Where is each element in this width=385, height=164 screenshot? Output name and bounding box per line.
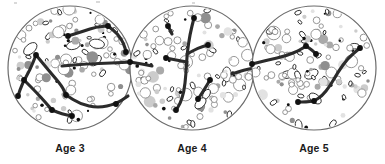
- network-node: [15, 93, 21, 99]
- cell-open: [289, 82, 294, 87]
- cell-dot: [89, 12, 91, 14]
- cell-open: [184, 125, 189, 130]
- network-node: [123, 49, 129, 55]
- cell-filled: [136, 81, 142, 87]
- cell-open: [33, 103, 38, 108]
- cell-filled: [51, 98, 56, 103]
- cell-open: [283, 110, 288, 115]
- cell-open: [67, 23, 73, 29]
- cell-dot: [302, 37, 305, 40]
- cell-dot: [77, 118, 81, 122]
- cell-open: [199, 54, 206, 61]
- cell-filled: [276, 80, 280, 84]
- cell-dot: [81, 44, 84, 47]
- cell-open: [230, 35, 234, 39]
- cell-open: [140, 88, 150, 98]
- cell-open: [151, 44, 156, 49]
- panel-label-3: Age 5: [299, 142, 329, 154]
- cell-filled: [145, 43, 149, 47]
- cell-vesicle: [242, 85, 245, 90]
- network-node: [63, 92, 69, 98]
- network-node: [33, 52, 39, 58]
- cell-dot: [306, 70, 309, 73]
- network-node: [49, 107, 55, 113]
- cell-open: [13, 48, 18, 53]
- network-node: [303, 43, 309, 49]
- cell-dot: [162, 107, 166, 111]
- cell-filled: [320, 61, 329, 70]
- cell-open: [313, 17, 320, 24]
- cell-filled: [168, 116, 172, 120]
- cell-dot: [113, 53, 116, 56]
- cell-dot: [184, 18, 187, 21]
- cell-filled: [35, 65, 39, 69]
- cell-filled: [49, 19, 53, 23]
- age-progression-figure: Age 3Age 4Age 5: [0, 0, 385, 164]
- network-node: [127, 59, 133, 65]
- cell-dot: [339, 40, 341, 42]
- cell-filled: [337, 79, 342, 84]
- cell-filled: [319, 78, 327, 86]
- panel-label-2: Age 4: [177, 142, 207, 154]
- cell-open: [26, 25, 32, 31]
- cell-open: [319, 24, 323, 28]
- cell-open: [326, 55, 331, 60]
- cell-filled: [137, 92, 141, 96]
- cell-filled: [311, 9, 315, 13]
- cell-vesicle: [222, 80, 226, 86]
- network-node: [207, 77, 213, 83]
- cell-vesicle: [190, 120, 195, 127]
- cell-open: [333, 44, 340, 51]
- cell-open: [108, 47, 113, 52]
- scan-artifact-mark: [14, 2, 17, 4]
- network-node: [357, 45, 363, 51]
- cell-filled: [32, 109, 36, 113]
- cell-open: [164, 38, 172, 46]
- cell-filled: [182, 41, 187, 46]
- scan-artifact-mark: [192, 2, 195, 4]
- cell-open: [211, 96, 217, 102]
- cell-open: [87, 97, 92, 102]
- cell-filled: [309, 68, 313, 72]
- network-node: [173, 107, 179, 113]
- cell-open: [282, 73, 286, 77]
- network-node: [191, 15, 197, 21]
- cell-open: [174, 37, 181, 44]
- cell-open: [266, 45, 275, 54]
- cell-open: [178, 62, 185, 69]
- cell-filled: [118, 84, 123, 89]
- cell-open: [358, 89, 366, 97]
- cell-open: [296, 78, 300, 82]
- cell-filled: [26, 93, 29, 96]
- cell-filled: [302, 15, 306, 19]
- cell-filled: [16, 76, 20, 80]
- cell-dot: [64, 44, 67, 47]
- cell-filled: [160, 99, 166, 105]
- cell-open: [107, 83, 115, 91]
- cell-filled: [154, 89, 159, 94]
- cell-filled: [324, 43, 328, 47]
- cell-filled: [224, 27, 232, 35]
- cell-open: [170, 46, 175, 51]
- cell-filled: [208, 107, 213, 112]
- panel-group: [8, 3, 376, 132]
- cell-filled: [79, 67, 85, 73]
- network-node: [165, 23, 171, 29]
- cell-filled: [233, 92, 238, 97]
- network-node: [65, 33, 71, 39]
- cell-vesicle: [325, 9, 329, 15]
- cell-open: [36, 115, 41, 120]
- network-node: [69, 113, 75, 119]
- cell-dot: [40, 103, 44, 107]
- cell-open: [236, 74, 242, 80]
- cell-open: [153, 26, 159, 32]
- cell-filled: [280, 82, 284, 86]
- cell-open: [358, 66, 363, 71]
- cell-filled: [87, 51, 99, 63]
- cell-filled: [85, 42, 90, 47]
- cell-filled: [229, 58, 233, 62]
- cell-filled: [354, 29, 357, 32]
- cell-filled: [290, 118, 295, 123]
- cell-filled: [220, 92, 226, 98]
- cell-open: [197, 113, 203, 119]
